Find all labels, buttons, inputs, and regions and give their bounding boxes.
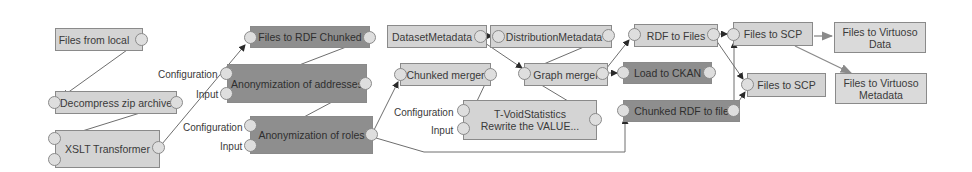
input-port[interactable] bbox=[492, 30, 505, 43]
pipeline-canvas[interactable]: Files from local Decompress zip archive … bbox=[0, 0, 972, 172]
node-label: Load to CKAN bbox=[634, 67, 701, 79]
input-port[interactable] bbox=[518, 67, 531, 80]
node-label: Anonymization of roles bbox=[258, 129, 364, 141]
configuration-port[interactable] bbox=[457, 104, 470, 117]
output-port[interactable] bbox=[135, 33, 148, 46]
input-port[interactable] bbox=[48, 132, 61, 145]
node-sublabel: Metadata bbox=[859, 89, 903, 101]
node-label: Chunked RDF to file bbox=[634, 105, 729, 117]
output-port[interactable] bbox=[703, 66, 716, 79]
input-port[interactable] bbox=[617, 66, 630, 79]
input-port[interactable] bbox=[617, 104, 630, 117]
node-label: Chunked merger bbox=[406, 69, 484, 81]
edge-anon-roles-to-chunked-merger[interactable] bbox=[374, 82, 398, 130]
node-dataset-metadata[interactable]: DatasetMetadata bbox=[387, 25, 487, 48]
output-port[interactable] bbox=[707, 28, 720, 41]
port-label-configuration: Configuration bbox=[394, 107, 453, 118]
node-sublabel: Data bbox=[869, 38, 891, 50]
node-files-to-scp-1[interactable]: Files to SCP bbox=[733, 22, 813, 46]
output-port[interactable] bbox=[170, 96, 183, 109]
configuration-port[interactable] bbox=[220, 67, 233, 80]
output-port[interactable] bbox=[602, 29, 615, 42]
node-label: Files to SCP bbox=[757, 79, 815, 91]
node-label: XSLT Transformer bbox=[65, 143, 150, 155]
node-label: DistributionMetadata bbox=[506, 31, 602, 43]
output-port[interactable] bbox=[359, 77, 372, 90]
output-port[interactable] bbox=[365, 128, 378, 141]
node-label: Anonymization of addresses bbox=[231, 78, 363, 90]
output-port[interactable] bbox=[727, 104, 740, 117]
node-rdf-to-files[interactable]: RDF to Files bbox=[634, 24, 718, 47]
port-label-configuration: Configuration bbox=[158, 69, 217, 80]
node-label: Files from local bbox=[59, 34, 130, 46]
node-distribution-metadata[interactable]: DistributionMetadata bbox=[490, 25, 612, 48]
node-label: Decompress zip archive bbox=[60, 97, 172, 109]
node-label: T-VoidStatistics bbox=[494, 108, 566, 120]
node-t-void-statistics[interactable]: T-VoidStatistics Rewrite the VALUE... bbox=[463, 100, 597, 140]
input-port[interactable] bbox=[628, 28, 641, 41]
input-port[interactable] bbox=[220, 87, 233, 100]
input-port[interactable] bbox=[741, 78, 754, 91]
node-xslt-transformer[interactable]: XSLT Transformer bbox=[55, 130, 160, 168]
node-label: Files to Virtuoso bbox=[843, 77, 918, 89]
port-label-input: Input bbox=[196, 89, 218, 100]
port-label-input: Input bbox=[220, 141, 242, 152]
node-label: Graph merger bbox=[533, 69, 598, 81]
node-label: Files to SCP bbox=[744, 28, 802, 40]
node-label: DatasetMetadata bbox=[392, 31, 472, 43]
input-port[interactable] bbox=[244, 139, 257, 152]
output-port[interactable] bbox=[589, 113, 602, 126]
input-port[interactable] bbox=[394, 68, 407, 81]
node-chunked-rdf-to-file[interactable]: Chunked RDF to file bbox=[623, 100, 740, 122]
node-label: RDF to Files bbox=[647, 30, 705, 42]
output-port[interactable] bbox=[363, 31, 376, 44]
output-port[interactable] bbox=[484, 68, 497, 81]
output-port[interactable] bbox=[474, 30, 487, 43]
node-decompress-zip-archive[interactable]: Decompress zip archive bbox=[55, 91, 177, 114]
input-port[interactable] bbox=[244, 31, 257, 44]
input-port[interactable] bbox=[48, 96, 61, 109]
port-label-input: Input bbox=[431, 125, 453, 136]
node-files-to-rdf-chunked[interactable]: Files to RDF Chunked bbox=[250, 26, 370, 48]
node-files-to-virtuoso-data[interactable]: Files to Virtuoso Data bbox=[834, 22, 926, 53]
input-port[interactable] bbox=[457, 122, 470, 135]
output-port[interactable] bbox=[596, 67, 609, 80]
node-chunked-merger[interactable]: Chunked merger bbox=[400, 63, 491, 86]
node-anonymization-of-addresses[interactable]: Anonymization of addresses bbox=[227, 64, 367, 103]
node-files-to-virtuoso-metadata[interactable]: Files to Virtuoso Metadata bbox=[835, 73, 927, 104]
port-label-configuration: Configuration bbox=[183, 122, 242, 133]
configuration-port[interactable] bbox=[244, 119, 257, 132]
node-files-from-local[interactable]: Files from local bbox=[55, 28, 143, 51]
node-label: Files to Virtuoso bbox=[842, 26, 917, 38]
input-port[interactable] bbox=[48, 153, 61, 166]
input-port[interactable] bbox=[727, 28, 740, 41]
node-load-to-ckan[interactable]: Load to CKAN bbox=[623, 62, 712, 84]
node-label: Files to RDF Chunked bbox=[258, 31, 361, 43]
node-files-to-scp-2[interactable]: Files to SCP bbox=[747, 73, 826, 97]
node-sublabel: Rewrite the VALUE... bbox=[481, 120, 579, 132]
output-port[interactable] bbox=[152, 141, 165, 154]
node-anonymization-of-roles[interactable]: Anonymization of roles bbox=[250, 116, 373, 154]
